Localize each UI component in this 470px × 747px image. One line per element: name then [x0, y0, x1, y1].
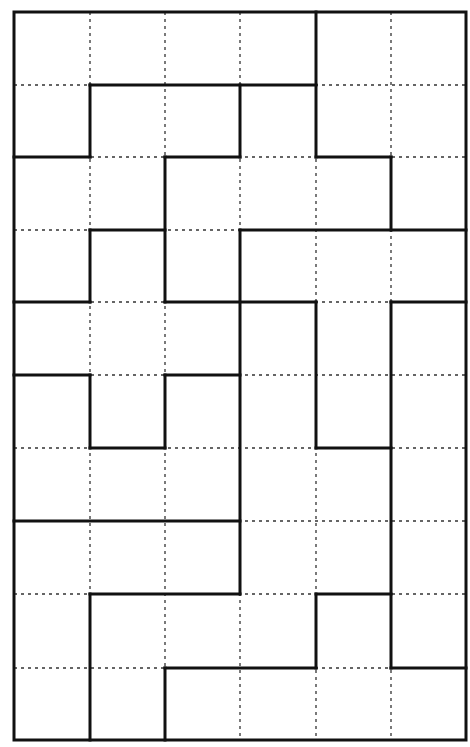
grid-puzzle-diagram — [0, 0, 470, 747]
